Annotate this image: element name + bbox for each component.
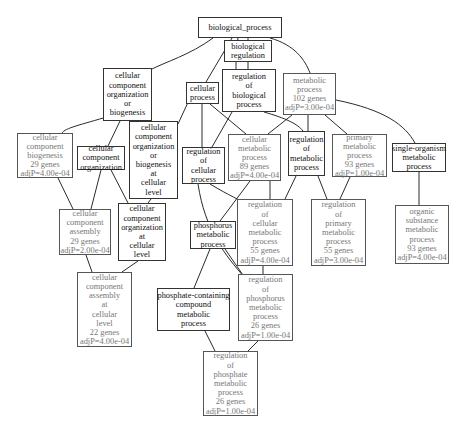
node-label-line: phosphorus: [246, 294, 285, 303]
node-label-line: process: [242, 153, 267, 162]
node-label-line: cellular: [129, 204, 154, 213]
node-label-line: 89 genes: [240, 162, 270, 171]
node-label-line: of: [262, 285, 269, 294]
edge-n14-n20: [86, 255, 92, 272]
node-label-line: process: [297, 85, 322, 94]
node-label-line: cellular: [32, 133, 57, 142]
node-label-line: metabolic: [238, 144, 271, 153]
node-label-line: biological: [232, 91, 266, 100]
edge-n21-n23: [205, 331, 215, 351]
node-label-line: metabolic: [196, 230, 229, 239]
node-label-line: adjP=4.00e-04: [397, 253, 446, 262]
go-term-node[interactable]: cellularcomponentorganizationorbiogenesi…: [103, 68, 152, 121]
node-label-line: metabolic: [402, 153, 435, 162]
node-label-line: cellular: [72, 209, 97, 218]
go-graph-canvas: biological_processbiologicalregulationre…: [0, 0, 465, 431]
go-term-node[interactable]: primarymetabolicprocess93 genesadjP=1.00…: [332, 134, 387, 177]
go-term-node[interactable]: regulationofphosphorusmetabolicprocess26…: [238, 274, 293, 341]
node-label-line: regulation: [249, 275, 283, 284]
node-label-line: component: [82, 153, 119, 162]
go-term-node[interactable]: regulationofcellularprocess: [182, 147, 225, 184]
node-label-line: cellular: [252, 219, 277, 228]
go-term-node[interactable]: cellularmetabolicprocess89 genesadjP=4.0…: [228, 134, 281, 181]
node-label-line: primary: [325, 219, 352, 228]
node-label-line: adjP=1.00e-04: [241, 331, 290, 340]
edge-n11-n17: [318, 176, 327, 199]
node-label-line: primary: [346, 133, 373, 142]
node-label-line: adjP=4.00e-04: [230, 171, 279, 180]
node-label-line: adjP=3.00e-04: [314, 256, 363, 265]
go-term-node[interactable]: cellularprocess: [186, 82, 219, 104]
node-label-line: or: [124, 99, 131, 108]
node-label-line: level: [145, 188, 161, 197]
node-label-line: adjP=4.00e-04: [80, 337, 129, 346]
node-label-line: organization: [133, 142, 175, 151]
node-label-line: level: [134, 250, 150, 259]
edge-n19-n21: [194, 249, 210, 288]
go-term-node[interactable]: cellularcomponentassembly29 genesadjP=2.…: [59, 209, 111, 255]
node-label-line: process: [406, 162, 431, 171]
node-label-line: cellular: [190, 84, 215, 93]
node-label-line: process: [253, 312, 278, 321]
go-term-node[interactable]: cellularcomponentassemblyatcellularlevel…: [77, 272, 132, 347]
node-label-line: process: [218, 388, 243, 397]
node-label-line: biological: [231, 42, 265, 51]
node-label-line: component: [123, 214, 160, 223]
node-label-line: metabolic: [177, 310, 210, 319]
node-label-line: process: [191, 175, 216, 184]
node-label-line: at: [139, 232, 145, 241]
node-label-line: regulation: [248, 200, 282, 209]
node-label-line: 26 genes: [216, 397, 246, 406]
node-label-line: biogenesis: [110, 108, 145, 117]
go-term-node[interactable]: regulationofbiologicalprocess: [222, 69, 276, 112]
node-label-line: of: [200, 156, 207, 165]
node-label-line: metabolic: [343, 142, 376, 151]
go-term-node[interactable]: regulationofprimarymetabolicprocess55 ge…: [311, 199, 366, 266]
node-label-line: cellular: [88, 144, 113, 153]
edge-n0-n3: [270, 38, 310, 73]
edge-n3-n12: [325, 115, 347, 134]
go-term-node[interactable]: organicsubstancemetabolicprocess93 genes…: [395, 205, 449, 264]
go-term-node[interactable]: cellularcomponentorganizationatcellularl…: [118, 203, 166, 261]
node-label-line: component: [26, 142, 63, 151]
node-label-line: cellular: [129, 241, 154, 250]
node-label-line: level: [96, 319, 112, 328]
edge-n22-n23: [248, 341, 258, 351]
edge-n7-n14: [91, 170, 101, 209]
node-label-line: of: [303, 144, 310, 153]
go-term-node[interactable]: phosphate-containingcompoundmetabolicpro…: [157, 288, 230, 331]
go-term-node[interactable]: biologicalregulation: [224, 40, 272, 62]
node-label-line: process: [190, 93, 215, 102]
go-term-node[interactable]: biological_process: [198, 17, 282, 38]
node-label-line: of: [262, 210, 269, 219]
go-term-node[interactable]: regulationofphosphatemetabolicprocess26 …: [203, 351, 258, 416]
node-label-line: biogenesis: [27, 151, 62, 160]
node-label-line: process: [409, 235, 434, 244]
node-label-line: process: [252, 237, 277, 246]
go-term-node[interactable]: phosphorusmetabolicprocess: [190, 221, 236, 249]
node-label-line: organic: [410, 207, 435, 216]
node-label-line: component: [135, 132, 172, 141]
go-term-node[interactable]: regulationofmetabolicprocess: [288, 131, 325, 176]
node-label-line: 55 genes: [324, 246, 354, 255]
node-label-line: or: [150, 151, 157, 160]
node-label-line: metabolic: [248, 228, 281, 237]
go-term-node[interactable]: single-organismmetabolicprocess: [392, 143, 446, 172]
node-label-line: cellular: [141, 123, 166, 132]
go-term-node[interactable]: cellularcomponentorganizationorbiogenesi…: [129, 121, 178, 199]
node-label-line: 102 genes: [293, 94, 327, 103]
go-term-node[interactable]: regulationofcellularmetabolicprocess55 g…: [237, 199, 293, 266]
node-label-line: 22 genes: [90, 328, 120, 337]
node-label-line: component: [66, 218, 103, 227]
node-label-line: metabolic: [322, 228, 355, 237]
node-label-line: 55 genes: [250, 246, 280, 255]
node-label-line: process: [200, 240, 225, 249]
go-term-node[interactable]: cellularcomponentorganization: [77, 146, 125, 170]
node-label-line: process: [326, 237, 351, 246]
go-term-node[interactable]: cellularcomponentbiogenesis29 genesadjP=…: [17, 133, 73, 178]
go-term-node[interactable]: metabolicprocess102 genesadjP=3.00e-04: [283, 73, 336, 115]
edge-n6-n14: [58, 178, 73, 209]
node-label-line: at: [101, 300, 107, 309]
node-label-line: adjP=4.00e-04: [20, 169, 69, 178]
node-label-line: regulation: [322, 200, 356, 209]
